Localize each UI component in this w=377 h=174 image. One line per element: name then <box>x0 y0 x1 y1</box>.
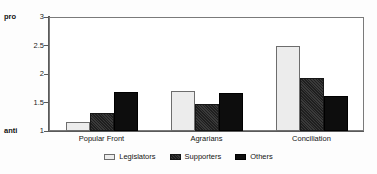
chart-legend: LegislatorsSupportersOthers <box>0 152 377 161</box>
legend-swatch-icon <box>235 154 246 160</box>
bar <box>324 96 348 131</box>
bar <box>300 78 324 131</box>
bar <box>276 46 300 132</box>
legend-swatch-icon <box>104 154 115 160</box>
y-axis-tick: 3 <box>0 13 44 21</box>
legend-item: Others <box>235 152 273 161</box>
legend-label: Legislators <box>119 152 155 161</box>
bars-layer <box>49 17 364 131</box>
legend-item: Legislators <box>104 152 155 161</box>
y-axis-tick-label: 1 <box>20 127 44 135</box>
legend-swatch-icon <box>170 154 181 160</box>
y-axis-tick: 1 <box>0 127 44 135</box>
bar <box>195 104 219 131</box>
bar <box>114 92 138 131</box>
x-axis-category-label: Agrarians <box>154 134 259 143</box>
bar <box>171 91 195 131</box>
x-axis-category-label: Conciliation <box>259 134 364 143</box>
y-axis-tick-label: 3 <box>20 13 44 21</box>
bar <box>219 93 243 131</box>
bar <box>66 122 90 131</box>
legend-item: Supporters <box>170 152 222 161</box>
legend-label: Supporters <box>185 152 222 161</box>
y-axis-tick-label: 1.5 <box>20 99 44 107</box>
legend-label: Others <box>250 152 273 161</box>
chart-figure: pro anti 11.522.53 Popular FrontAgrarian… <box>0 0 377 174</box>
y-axis-tick-label: 2.5 <box>20 42 44 50</box>
x-axis-category-label: Popular Front <box>49 134 154 143</box>
y-axis-tick-label: 2 <box>20 70 44 78</box>
y-axis-tick: 1.5 <box>0 99 44 107</box>
y-axis-tick: 2 <box>0 70 44 78</box>
y-axis-tick: 2.5 <box>0 42 44 50</box>
bar <box>90 113 114 131</box>
